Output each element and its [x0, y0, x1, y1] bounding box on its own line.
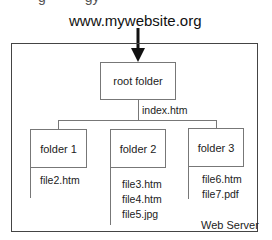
folder-2-file: file3.htm	[122, 178, 162, 190]
clipped-caption: g gy	[38, 0, 99, 5]
root-folder-box: root folder	[100, 62, 176, 100]
folder-2-file: file5.jpg	[122, 208, 158, 220]
root-file: index.htm	[142, 104, 188, 116]
folder-2-file-line	[110, 168, 111, 225]
folder-1-label: folder 1	[40, 143, 77, 155]
folder1-connector	[58, 120, 59, 129]
folder3-connector	[216, 120, 217, 128]
url-label: www.mywebsite.org	[69, 12, 202, 29]
branch-connector	[58, 120, 217, 121]
folder-1-file-line	[30, 168, 31, 198]
folder-2-box: folder 2	[110, 129, 166, 168]
folder-2-label: folder 2	[120, 143, 157, 155]
web-server-label: Web Server	[201, 219, 259, 231]
folder-2-file: file4.htm	[122, 193, 162, 205]
folder-1-file: file2.htm	[40, 174, 80, 186]
folder-1-box: folder 1	[30, 129, 87, 168]
folder-3-file-line	[188, 167, 189, 199]
folder-3-file: file7.pdf	[202, 188, 239, 200]
folder-3-box: folder 3	[188, 128, 244, 167]
folder-3-file: file6.htm	[202, 173, 242, 185]
folder-3-label: folder 3	[198, 142, 235, 154]
root-folder-label: root folder	[113, 75, 163, 87]
root-connector	[138, 100, 139, 121]
